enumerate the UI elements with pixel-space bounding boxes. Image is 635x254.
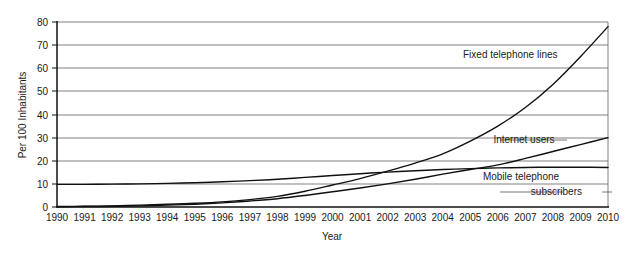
x-tick-label-1999: 1999 xyxy=(294,212,317,223)
x-tick-label-2008: 2008 xyxy=(542,212,565,223)
x-tick-label-2007: 2007 xyxy=(514,212,537,223)
y-tick-label-10: 10 xyxy=(37,179,49,190)
x-tick-label-1998: 1998 xyxy=(266,212,289,223)
x-tick-label-1992: 1992 xyxy=(101,212,124,223)
x-tick-label-1995: 1995 xyxy=(184,212,207,223)
series-label-internet-users: Internet users xyxy=(493,134,554,145)
x-tick-label-2010: 2010 xyxy=(597,212,620,223)
x-tick-label-2006: 2006 xyxy=(487,212,510,223)
x-tick-label-1997: 1997 xyxy=(239,212,262,223)
x-tick-label-2004: 2004 xyxy=(432,212,455,223)
x-tick-label-2001: 2001 xyxy=(349,212,372,223)
y-tick-label-20: 20 xyxy=(37,156,49,167)
gridlines xyxy=(57,22,608,184)
x-tick-label-2005: 2005 xyxy=(459,212,482,223)
x-tick-label-1996: 1996 xyxy=(211,212,234,223)
x-tick-label-2003: 2003 xyxy=(404,212,427,223)
x-tick-label-2009: 2009 xyxy=(569,212,592,223)
x-axis-tick-labels: 1990 1991 1992 1993 1994 1995 1996 1997 … xyxy=(46,212,620,223)
line-chart: 80 70 60 50 40 30 20 10 0 Per 100 Inhabi… xyxy=(0,0,635,254)
series-label-mobile-telephone-subscribers-line2: subscribers xyxy=(531,186,582,197)
y-tick-label-60: 60 xyxy=(37,63,49,74)
y-tick-label-40: 40 xyxy=(37,110,49,121)
y-axis-title: Per 100 Inhabitants xyxy=(17,72,28,159)
x-tick-label-1994: 1994 xyxy=(156,212,179,223)
series-label-mobile-telephone-subscribers-line1: Mobile telephone xyxy=(483,171,560,182)
x-tick-label-2002: 2002 xyxy=(376,212,399,223)
x-tick-label-1993: 1993 xyxy=(129,212,152,223)
y-tick-label-80: 80 xyxy=(37,17,49,28)
x-tick-label-1990: 1990 xyxy=(46,212,69,223)
x-tick-label-1991: 1991 xyxy=(73,212,96,223)
chart-figure: 80 70 60 50 40 30 20 10 0 Per 100 Inhabi… xyxy=(0,0,635,254)
y-tick-label-70: 70 xyxy=(37,40,49,51)
series-label-fixed-telephone-lines: Fixed telephone lines xyxy=(463,49,558,60)
y-tick-label-30: 30 xyxy=(37,133,49,144)
x-tick-label-2000: 2000 xyxy=(321,212,344,223)
x-axis-title: Year xyxy=(322,231,343,242)
y-tick-label-50: 50 xyxy=(37,86,49,97)
y-axis-tick-labels: 80 70 60 50 40 30 20 10 0 xyxy=(37,17,49,213)
